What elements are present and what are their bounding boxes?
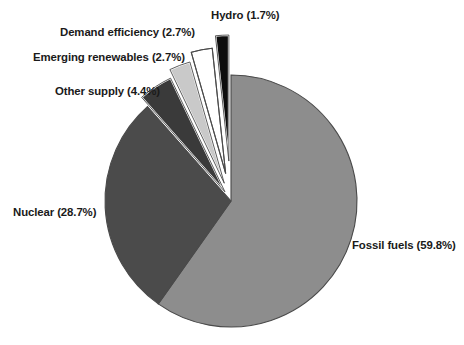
pie-label-other-supply: Other supply (4.4%) [55,85,160,98]
pie-label-hydro: Hydro (1.7%) [211,9,279,22]
pie-label-emerging-renewables: Emerging renewables (2.7%) [33,51,185,64]
pie-label-demand-efficiency: Demand efficiency (2.7%) [60,26,195,39]
pie-chart-figure: Hydro (1.7%) Demand efficiency (2.7%) Em… [0,0,464,345]
pie-label-nuclear: Nuclear (28.7%) [13,206,96,219]
pie-label-fossil-fuels: Fossil fuels (59.8%) [352,239,456,252]
